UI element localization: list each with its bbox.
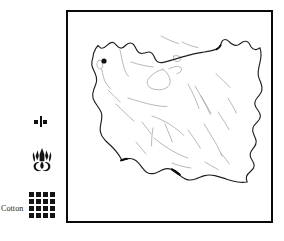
cotton-grid-icon: [29, 192, 55, 218]
grid-cell: [50, 192, 55, 197]
grid-cell: [36, 192, 41, 197]
legend-item-cotton[interactable]: Cotton: [0, 190, 62, 220]
capital-marker: [101, 58, 106, 63]
grid-cell: [43, 192, 48, 197]
house-icon: [29, 105, 53, 129]
grid-cell: [29, 192, 34, 197]
map-emphasis-segments: [121, 45, 221, 174]
grid-cell: [29, 199, 34, 204]
grid-cell: [43, 199, 48, 204]
grid-cell: [36, 206, 41, 211]
map-frame: [66, 10, 273, 223]
grid-cell: [36, 213, 41, 218]
map-inland-features: [97, 36, 236, 170]
grid-cell: [29, 206, 34, 211]
legend-item-house[interactable]: [0, 103, 62, 133]
legend-item-emblem[interactable]: [0, 145, 62, 175]
map-legend: Cotton: [0, 100, 62, 225]
grid-cell: [50, 213, 55, 218]
legend-item-cotton-label: Cotton: [1, 204, 23, 213]
iran-border-outline: [92, 40, 262, 183]
figure-root: Cotton: [0, 0, 284, 241]
grid-cell: [29, 213, 34, 218]
grid-cell: [43, 213, 48, 218]
grid-cell: [50, 206, 55, 211]
grid-cell: [43, 206, 48, 211]
grid-cell: [50, 199, 55, 204]
grid-cell: [36, 199, 41, 204]
iran-map-svg: [68, 12, 271, 221]
